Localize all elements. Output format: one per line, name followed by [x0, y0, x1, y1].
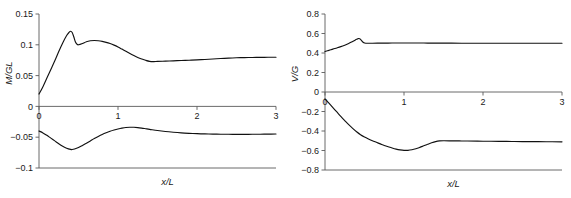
y-tick-label: −0.1: [15, 163, 33, 173]
right-x-axis-title: x/L: [446, 178, 460, 189]
y-tick-label: 0.1: [20, 40, 33, 50]
y-tick-label: −0.6: [301, 146, 319, 156]
y-tick-label: 0.15: [15, 9, 33, 19]
left-curve-group: [39, 31, 276, 149]
y-tick-label: 0.8: [306, 9, 319, 19]
chart-panel-left: −0.1−0.0500.050.10.15 0123 x/L M/GL: [0, 0, 285, 198]
left-chart-svg: −0.1−0.0500.050.10.15 0123 x/L M/GL: [0, 0, 285, 198]
y-tick-label: 0.2: [306, 68, 319, 78]
y-tick-label: 0.05: [15, 71, 33, 81]
data-curve-upper: [325, 39, 562, 52]
left-y-axis-title: M/GL: [3, 61, 14, 84]
right-curve-group: [325, 39, 562, 151]
x-tick-label: 3: [559, 97, 564, 107]
y-tick-label: 0: [314, 87, 319, 97]
figure-container: −0.1−0.0500.050.10.15 0123 x/L M/GL −0.8…: [0, 0, 571, 198]
y-tick-label: −0.8: [301, 165, 319, 175]
x-tick-label: 1: [401, 97, 406, 107]
left-y-tick-group: −0.1−0.0500.050.10.15: [10, 9, 39, 173]
right-axes: [325, 14, 562, 170]
right-y-axis-title: V/G: [289, 66, 300, 82]
data-curve-upper: [39, 31, 276, 94]
y-tick-label: −0.4: [301, 126, 319, 136]
data-curve-lower: [39, 127, 276, 149]
x-tick-label: 2: [480, 97, 485, 107]
data-curve-lower: [325, 99, 562, 151]
right-x-tick-group: 0123: [322, 92, 564, 107]
x-tick-label: 2: [194, 111, 199, 121]
right-chart-svg: −0.8−0.6−0.4−0.200.20.40.60.8 0123 x/L V…: [286, 0, 571, 198]
x-tick-label: 1: [115, 111, 120, 121]
left-x-axis-title: x/L: [160, 176, 174, 187]
right-y-tick-group: −0.8−0.6−0.4−0.200.20.40.60.8: [301, 9, 325, 175]
y-tick-label: −0.2: [301, 107, 319, 117]
x-tick-label: 0: [36, 111, 41, 121]
left-x-tick-group: 0123: [36, 106, 278, 121]
chart-panel-right: −0.8−0.6−0.4−0.200.20.40.60.8 0123 x/L V…: [286, 0, 571, 198]
y-tick-label: −0.05: [10, 132, 33, 142]
left-axes: [39, 14, 276, 168]
y-tick-label: 0.4: [306, 48, 319, 58]
x-tick-label: 3: [273, 111, 278, 121]
y-tick-label: 0: [28, 102, 33, 112]
y-tick-label: 0.6: [306, 29, 319, 39]
